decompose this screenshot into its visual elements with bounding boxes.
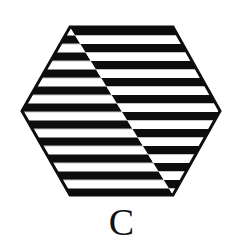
figure-caption-label: C xyxy=(0,200,243,244)
figure-container: C xyxy=(0,0,243,247)
